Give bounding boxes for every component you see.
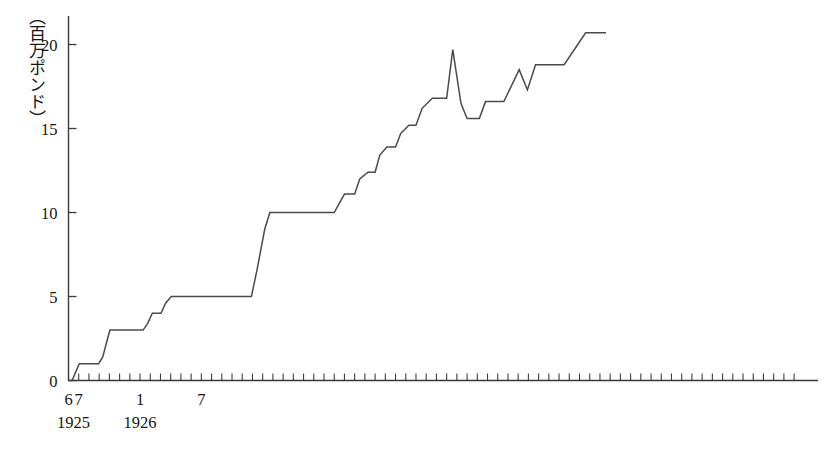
x-year-label: 1925	[57, 413, 90, 432]
chart-plot: 05101520 6717 19251926	[0, 0, 825, 452]
y-tick-labels-group: 05101520	[41, 36, 58, 391]
y-tick-label-10: 10	[41, 204, 58, 223]
y-tick-label-20: 20	[41, 36, 58, 55]
x-tick-label: 6	[64, 390, 72, 409]
data-series-line	[69, 33, 607, 381]
y-tick-label-15: 15	[41, 120, 58, 139]
chart-container: （百万ポンド） 05101520 6717 19251926	[0, 0, 825, 452]
y-tick-label-5: 5	[49, 288, 57, 307]
x-tick-label: 1	[136, 390, 144, 409]
y-ticks-group	[69, 45, 77, 381]
x-year-label: 1926	[124, 413, 157, 432]
x-tick-label: 7	[75, 390, 83, 409]
y-tick-label-0: 0	[49, 372, 57, 391]
axes-group	[69, 16, 819, 381]
x-tick-label: 7	[197, 390, 205, 409]
x-tick-labels-group: 6717	[64, 390, 205, 409]
year-labels-group: 19251926	[57, 413, 156, 432]
x-ticks-group	[69, 374, 795, 381]
